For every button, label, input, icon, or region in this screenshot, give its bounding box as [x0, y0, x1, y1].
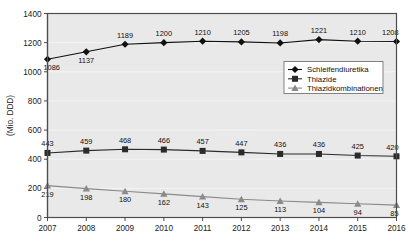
y-tick-label: 1400: [23, 10, 42, 19]
data-point-label: 1200: [156, 29, 172, 38]
x-tick-label: 2008: [77, 224, 96, 233]
data-point-marker: [277, 151, 283, 157]
data-point-label: 125: [235, 203, 247, 212]
data-point-label: 447: [235, 139, 247, 148]
data-point-label: 1086: [44, 63, 60, 72]
legend-marker-icon: [292, 76, 298, 82]
x-tick-label: 2016: [387, 224, 406, 233]
line-chart: 0200400600800100012001400 20072008200920…: [0, 0, 408, 245]
data-point-label: 1198: [272, 29, 288, 38]
data-point-label: 113: [274, 205, 286, 214]
y-tick-label: 400: [28, 155, 42, 164]
data-point-label: 466: [158, 136, 170, 145]
y-axis-title-text: (Mio. DDD): [6, 95, 15, 136]
data-point-label: 457: [196, 137, 208, 146]
x-tick-label: 2011: [194, 224, 212, 233]
x-tick-label: 2014: [310, 224, 329, 233]
y-tick-label: 0: [37, 214, 42, 223]
data-point-label: 459: [80, 137, 92, 146]
data-point-label: 162: [158, 198, 170, 207]
data-point-label: 436: [313, 140, 325, 149]
chart-container: 0200400600800100012001400 20072008200920…: [0, 0, 408, 245]
data-point-label: 1205: [233, 28, 249, 37]
data-point-marker: [83, 148, 89, 154]
data-point-marker: [355, 153, 361, 159]
chart-legend: SchleifendiuretikaThiazideThiazidkombina…: [284, 62, 383, 94]
y-tick-label: 1200: [23, 39, 42, 48]
data-point-label: 1210: [349, 28, 365, 37]
x-tick-label: 2015: [349, 224, 368, 233]
data-point-label: 1210: [194, 28, 210, 37]
data-point-label: 85: [390, 209, 398, 218]
x-tick-label: 2007: [38, 224, 57, 233]
data-point-label: 425: [352, 142, 364, 151]
data-point-label: 1189: [117, 31, 133, 40]
data-point-label: 1137: [78, 56, 94, 65]
data-point-label: 104: [313, 206, 325, 215]
y-tick-label: 1000: [23, 68, 42, 77]
data-point-marker: [238, 149, 244, 155]
plot-background: [48, 14, 397, 218]
y-tick-label: 200: [28, 184, 42, 193]
y-tick-label: 600: [28, 126, 42, 135]
data-point-marker: [161, 147, 167, 153]
x-tick-label: 2009: [116, 224, 135, 233]
x-tick-label: 2010: [155, 224, 174, 233]
data-point-label: 198: [80, 193, 92, 202]
data-point-marker: [316, 151, 322, 157]
data-point-label: 1221: [311, 26, 327, 35]
data-point-marker: [122, 146, 128, 152]
data-point-label: 436: [274, 140, 286, 149]
y-tick-label: 800: [28, 97, 42, 106]
legend-item-label: Thiazidkombinationen: [307, 84, 383, 93]
x-tick-label: 2012: [232, 224, 251, 233]
legend-item-label: Thiazide: [307, 75, 336, 84]
data-point-label: 468: [119, 136, 131, 145]
x-axis-ticks: 2007200820092010201120122013201420152016: [38, 218, 406, 233]
legend-item-label: Schleifendiuretika: [307, 65, 369, 74]
data-point-label: 94: [354, 208, 362, 217]
data-point-label: 143: [196, 201, 208, 210]
x-tick-label: 2013: [271, 224, 290, 233]
y-axis-title: (Mio. DDD): [6, 95, 15, 136]
data-point-marker: [200, 148, 206, 154]
plot-area: [48, 14, 397, 218]
data-point-label: 180: [119, 195, 131, 204]
